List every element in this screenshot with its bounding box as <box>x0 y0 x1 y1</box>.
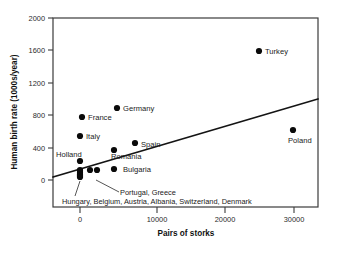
stork-birthrate-scatter-figure: 2000 1600 1200 800 400 0 0 10000 20000 3… <box>0 0 339 253</box>
leader-line-cluster <box>75 181 80 196</box>
point-bulgaria[interactable] <box>111 166 117 172</box>
leader-line-portugal-greece <box>96 180 119 192</box>
label-portugal-greece: Portugal, Greece <box>120 188 176 197</box>
x-tick-label-20000: 20000 <box>215 215 236 224</box>
y-tick-label-800: 800 <box>33 111 45 120</box>
point-turkey[interactable] <box>256 48 262 54</box>
x-tick-label-30000: 30000 <box>284 215 305 224</box>
chart-canvas: 2000 1600 1200 800 400 0 0 10000 20000 3… <box>0 0 339 253</box>
label-cluster-group: Hungary, Belgium, Austria, Albania, Swit… <box>62 197 252 206</box>
label-turkey: Turkey <box>265 47 288 56</box>
point-poland[interactable] <box>290 127 296 133</box>
label-romania: Romania <box>111 152 142 161</box>
point-germany[interactable] <box>114 105 120 111</box>
x-axis-title: Pairs of storks <box>158 229 215 238</box>
point-italy[interactable] <box>77 133 83 139</box>
label-germany: Germany <box>123 104 154 113</box>
label-france: France <box>88 113 112 122</box>
label-bulgaria: Bulgaria <box>123 165 152 174</box>
x-tick-label-0: 0 <box>78 215 82 224</box>
y-tick-label-1200: 1200 <box>29 79 45 88</box>
y-tick-label-1600: 1600 <box>29 46 45 55</box>
point-denmark[interactable] <box>77 174 83 180</box>
label-poland: Poland <box>288 136 312 145</box>
point-greece[interactable] <box>94 167 100 173</box>
label-holland: Holland <box>56 150 82 159</box>
x-axis-ticks <box>80 207 294 213</box>
y-axis-ticks <box>48 18 53 180</box>
y-axis-title: Human birth rate (1000s/year) <box>10 54 19 169</box>
y-tick-label-400: 400 <box>33 144 45 153</box>
point-cluster-origin[interactable] <box>77 167 83 180</box>
x-tick-label-10000: 10000 <box>147 215 168 224</box>
y-tick-label-0: 0 <box>41 176 45 185</box>
point-france[interactable] <box>79 114 85 120</box>
point-portugal[interactable] <box>87 167 93 173</box>
point-spain[interactable] <box>132 140 138 146</box>
label-italy: Italy <box>86 132 100 141</box>
label-spain: Spain <box>141 140 160 149</box>
y-tick-label-2000: 2000 <box>29 14 45 23</box>
